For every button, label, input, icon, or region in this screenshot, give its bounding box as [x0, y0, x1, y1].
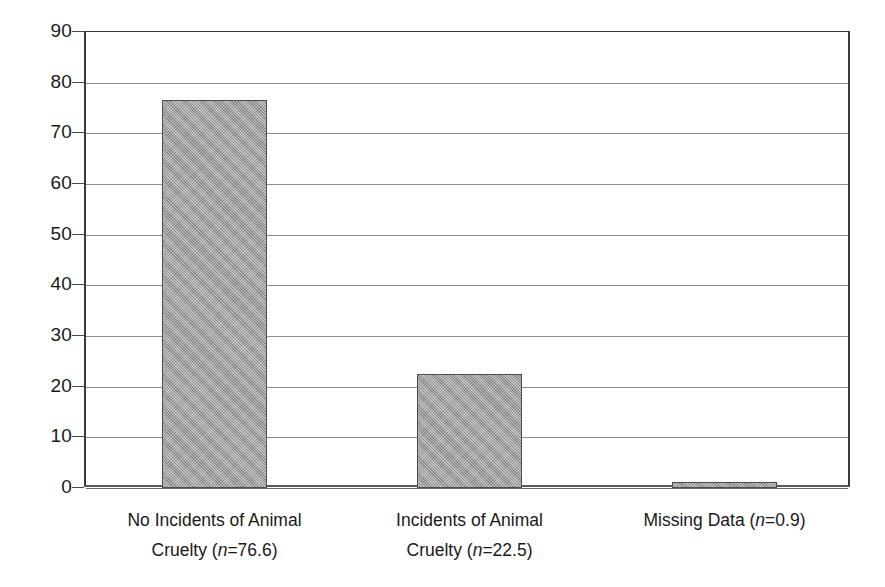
y-axis-tick-label-10: 10 — [12, 426, 72, 445]
y-tick-mark-30 — [72, 335, 84, 336]
y-tick-mark-0 — [72, 487, 84, 488]
y-tick-mark-90 — [72, 31, 84, 32]
category-label-1: No Incidents of AnimalCruelty (n=76.6) — [82, 505, 347, 565]
y-tick-mark-10 — [72, 436, 84, 437]
italic-n: n — [218, 540, 228, 560]
bar-chart: 9080706050403020100 No Incidents of Anim… — [0, 0, 885, 587]
y-axis-tick-label-0: 0 — [12, 477, 72, 496]
gridline-80 — [86, 83, 848, 84]
y-tick-mark-20 — [72, 386, 84, 387]
gridline-0 — [86, 488, 848, 489]
y-axis-tick-label-70: 70 — [12, 122, 72, 141]
category-label-line-1: Incidents of Animal — [337, 505, 602, 535]
y-axis-tick-label-50: 50 — [12, 224, 72, 243]
plot-area — [84, 31, 850, 487]
italic-n: n — [473, 540, 483, 560]
y-tick-mark-60 — [72, 183, 84, 184]
category-label-3: Missing Data (n=0.9) — [592, 505, 857, 535]
category-label-line-2: Cruelty (n=76.6) — [82, 535, 347, 565]
category-label-line-1: No Incidents of Animal — [82, 505, 347, 535]
y-tick-mark-80 — [72, 82, 84, 83]
italic-n: n — [755, 510, 765, 530]
bar-1 — [162, 100, 267, 488]
bar-2 — [417, 374, 522, 488]
y-tick-mark-50 — [72, 234, 84, 235]
y-axis-tick-label-30: 30 — [12, 325, 72, 344]
y-axis-tick-label-80: 80 — [12, 72, 72, 91]
category-label-2: Incidents of AnimalCruelty (n=22.5) — [337, 505, 602, 565]
y-axis-tick-label-60: 60 — [12, 173, 72, 192]
y-axis-tick-label-40: 40 — [12, 274, 72, 293]
bar-3 — [672, 482, 777, 488]
y-tick-mark-40 — [72, 284, 84, 285]
category-label-line-2: Cruelty (n=22.5) — [337, 535, 602, 565]
y-axis-tick-label-90: 90 — [12, 21, 72, 40]
category-label-line: Missing Data (n=0.9) — [592, 505, 857, 535]
y-axis-tick-label-20: 20 — [12, 376, 72, 395]
y-tick-mark-70 — [72, 132, 84, 133]
